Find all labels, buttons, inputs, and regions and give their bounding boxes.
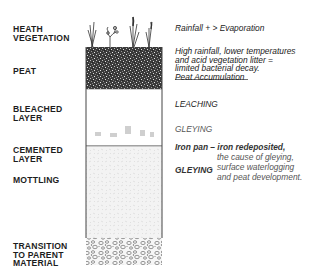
mottled-layer	[86, 147, 162, 239]
note-peat-accumulation: Peat Accumulation	[175, 73, 296, 82]
bleached-layer	[86, 89, 162, 146]
label-mottling: MOTTLING	[13, 176, 59, 185]
label-heath-vegetation: HEATH VEGETATION	[13, 25, 70, 42]
label-line: MATERIAL	[13, 259, 68, 268]
label-line: VEGETATION	[13, 34, 70, 43]
note-iron-pan-line4: and peat development.	[217, 173, 302, 182]
note-gleying-lower: GLEYING	[175, 166, 213, 175]
parent-material-layer	[86, 238, 162, 265]
label-line: LAYER	[13, 155, 63, 164]
note-gleying-upper: GLEYING	[175, 125, 212, 134]
heath-vegetation-icon	[88, 17, 152, 47]
label-line: PEAT	[13, 67, 36, 76]
label-line: MOTTLING	[13, 176, 59, 185]
note-iron-pan-line3: surface waterlogging	[217, 163, 294, 172]
label-bleached-layer: BLEACHED LAYER	[13, 105, 62, 122]
label-line: LAYER	[13, 114, 62, 123]
label-peat: PEAT	[13, 67, 36, 76]
note-peat: High rainfall, lower temperatures and ac…	[175, 47, 296, 81]
label-transition: TRANSITION TO PARENT MATERIAL	[13, 242, 68, 268]
label-cemented-layer: CEMENTED LAYER	[13, 146, 63, 163]
note-rainfall: Rainfall + > Evaporation	[175, 24, 264, 33]
note-iron-pan-line2: the cause of gleying,	[217, 153, 294, 162]
note-iron-pan: Iron pan – iron redeposited,	[175, 143, 285, 152]
peat-layer	[86, 47, 162, 89]
note-leaching: LEACHING	[175, 100, 218, 109]
